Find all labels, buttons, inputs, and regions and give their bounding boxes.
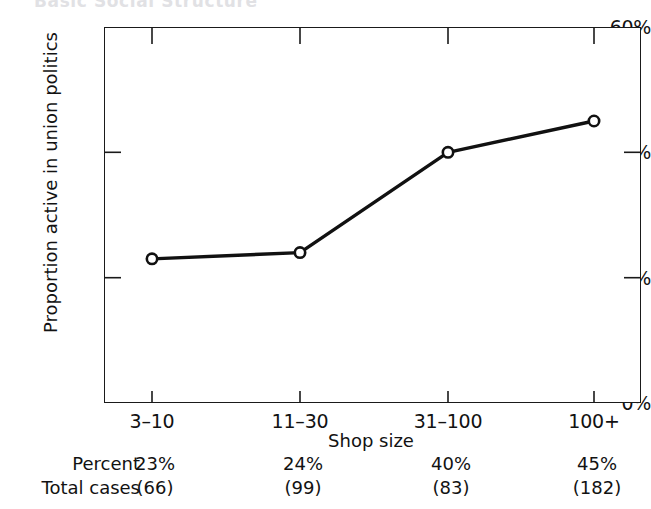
table-row-percent: Percent 23% 24% 40% 45% xyxy=(0,453,651,477)
table-cell-total-cases-1: (66) xyxy=(95,477,215,498)
x-axis-tick-label-2: 11–30 xyxy=(220,410,380,432)
y-axis-title: Proportion active in union politics xyxy=(40,13,61,353)
table-cell-percent-3: 40% xyxy=(391,453,511,474)
table-cell-percent-2: 24% xyxy=(243,453,363,474)
x-axis-tick-label-1: 3–10 xyxy=(72,410,232,432)
table-cell-total-cases-2: (99) xyxy=(243,477,363,498)
x-axis-tick-label-3: 31–100 xyxy=(368,410,528,432)
summary-data-table: Percent 23% 24% 40% 45% Total cases (66)… xyxy=(0,453,651,501)
plot-area xyxy=(104,27,641,403)
figure-title-cropped: Basic Social Structure xyxy=(34,0,258,11)
table-cell-total-cases-4: (182) xyxy=(537,477,651,498)
x-axis-tick-label-4: 100+ xyxy=(514,410,651,432)
table-cell-percent-1: 23% xyxy=(95,453,215,474)
x-axis-title: Shop size xyxy=(291,430,451,451)
table-cell-total-cases-3: (83) xyxy=(391,477,511,498)
table-cell-percent-4: 45% xyxy=(537,453,651,474)
table-row-total-cases: Total cases (66) (99) (83) (182) xyxy=(0,477,651,501)
